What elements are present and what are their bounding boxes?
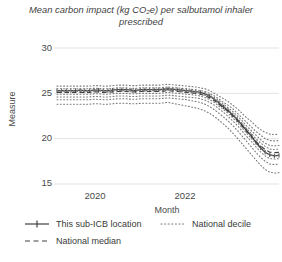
series-line-9 [57,102,279,173]
legend-item-sub-icb[interactable]: This sub-ICB location [24,219,142,229]
legend-item-national-median[interactable]: National median [24,236,121,246]
series-line-6 [57,92,279,155]
dashed-line-icon [24,236,50,246]
legend-label-national-median: National median [56,236,121,246]
series-line-3 [57,87,279,141]
legend-label-sub-icb: This sub-ICB location [56,219,142,229]
solid-line-marker-icon [24,219,50,229]
chart-container: Mean carbon impact (kg CO₂e) per salbuta… [0,0,282,262]
legend-item-national-decile[interactable]: National decile [160,219,251,229]
series-line-5 [57,90,279,150]
chart-legend: This sub-ICB location National decile Na… [24,219,282,259]
dotted-line-icon [160,219,186,229]
series-line-0 [57,89,279,156]
legend-label-national-decile: National decile [192,219,251,229]
